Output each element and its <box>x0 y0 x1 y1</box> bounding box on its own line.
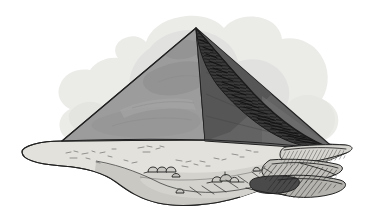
rock-cluster-b <box>157 167 167 172</box>
rock-cluster-a <box>148 167 158 172</box>
rock-small-i <box>253 167 260 171</box>
rock-cluster-c <box>166 167 176 172</box>
rock-small-h <box>176 189 184 193</box>
illustration-canvas: grayscale pen-and-ink line drawing with … <box>0 0 372 216</box>
rock-cluster-g <box>230 177 239 182</box>
pyramid-illustration <box>0 0 372 216</box>
rock-small-d <box>172 174 180 178</box>
